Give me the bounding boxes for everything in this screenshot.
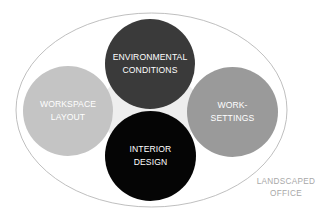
node-environmental-conditions: ENVIRONMENTAL CONDITIONS <box>105 19 195 109</box>
node-interior-design: INTERIOR DESIGN <box>105 111 196 201</box>
node-workspace-layout: WORKSPACE LAYOUT <box>23 66 113 156</box>
node-label: WORKSPACE LAYOUT <box>40 98 96 124</box>
node-label: ENVIRONMENTAL CONDITIONS <box>113 51 188 77</box>
node-label: INTERIOR DESIGN <box>130 143 172 169</box>
node-work-settings: WORK- SETTINGS <box>187 67 278 157</box>
node-label: WORK- SETTINGS <box>211 99 255 125</box>
container-label: LANDSCAPED OFFICE <box>248 176 324 200</box>
landscaped-office-diagram: WORKSPACE LAYOUT WORK- SETTINGS ENVIRONM… <box>0 0 332 216</box>
